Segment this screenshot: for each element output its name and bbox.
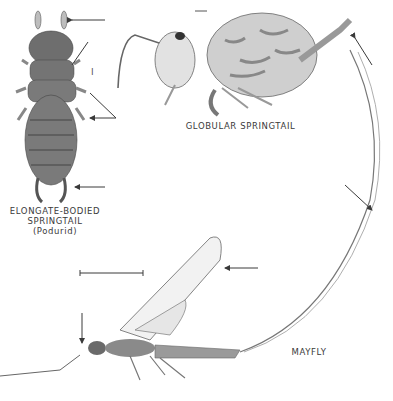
- mayfly-label: MAYFLY: [284, 347, 334, 357]
- elongate-springtail-drawing: I: [16, 11, 116, 202]
- elongate-label-line-3: (Podurid): [0, 226, 110, 236]
- elongate-label-line-2: SPRINGTAIL: [0, 216, 110, 226]
- elongate-springtail-label: ELONGATE-BODIED SPRINGTAIL (Podurid): [0, 206, 110, 236]
- globular-springtail-drawing: [118, 11, 372, 115]
- globular-springtail-label: GLOBULAR SPRINGTAIL: [183, 121, 298, 131]
- svg-text:I: I: [91, 67, 94, 77]
- illustration-canvas: I: [0, 0, 393, 401]
- elongate-label-line-1: ELONGATE-BODIED: [0, 206, 110, 216]
